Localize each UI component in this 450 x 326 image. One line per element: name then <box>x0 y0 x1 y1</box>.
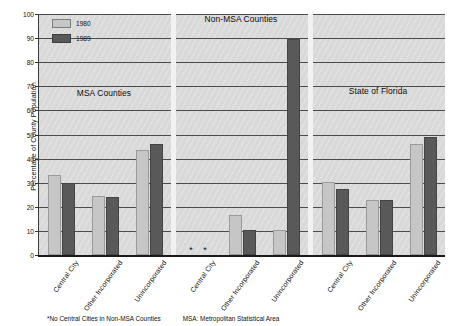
bar-state-of-florida-other-incorporated-1989 <box>380 200 393 255</box>
y-tick-label-80: 80 <box>27 59 34 66</box>
x-tick-label-non-msa-counties-central-city: Central City <box>189 259 217 294</box>
y-tick-mark-40 <box>35 159 38 160</box>
bar-state-of-florida-unincorporated-1980 <box>410 144 423 255</box>
x-tick-label-msa-counties-central-city: Central City <box>52 259 80 294</box>
y-tick-label-10: 10 <box>27 227 34 234</box>
y-tick-label-70: 70 <box>27 83 34 90</box>
bar-state-of-florida-central-city-1980 <box>322 182 335 256</box>
no-data-marker-non-msa-counties-central-city-1989: * <box>203 247 207 253</box>
section-separator-2 <box>308 14 313 255</box>
y-tick-mark-70 <box>35 86 38 87</box>
legend-label-1980: 1980 <box>76 20 91 27</box>
section-separator-1 <box>171 14 176 255</box>
y-tick-label-100: 100 <box>23 11 34 18</box>
y-tick-label-50: 50 <box>27 131 34 138</box>
bar-msa-counties-other-incorporated-1980 <box>92 196 105 255</box>
footnotes: *No Central Cities in Non-MSA Counties M… <box>47 315 437 322</box>
x-tick-label-msa-counties-unincorporated: Unincorporated <box>133 259 168 303</box>
bar-non-msa-counties-other-incorporated-1980 <box>229 215 242 255</box>
x-tick-label-state-of-florida-central-city: Central City <box>326 259 354 294</box>
footnote-msa-definition: MSA: Metropolitan Statistical Area <box>183 315 280 322</box>
gridline-50 <box>39 135 445 136</box>
y-tick-mark-100 <box>35 14 38 15</box>
y-tick-label-30: 30 <box>27 179 34 186</box>
x-tick-label-state-of-florida-unincorporated: Unincorporated <box>407 259 442 303</box>
y-tick-mark-0 <box>35 255 38 256</box>
x-tick-label-non-msa-counties-unincorporated: Unincorporated <box>270 259 305 303</box>
plot-area: ** <box>38 14 445 255</box>
x-tick-label-msa-counties-other-incorporated: Other Incorporated <box>82 259 123 312</box>
footnote-no-central-cities: *No Central Cities in Non-MSA Counties <box>47 315 161 322</box>
y-tick-mark-50 <box>35 135 38 136</box>
y-tick-label-60: 60 <box>27 107 34 114</box>
legend: 1980 1989 <box>52 19 91 49</box>
y-tick-mark-20 <box>35 207 38 208</box>
bar-chart: Percentage of County Population ** 01020… <box>0 0 450 326</box>
section-title-msa-counties: MSA Counties <box>77 88 131 98</box>
legend-label-1989: 1989 <box>76 35 91 42</box>
gridline-40 <box>39 159 445 160</box>
y-tick-label-0: 0 <box>30 252 34 259</box>
gridline-60 <box>39 110 445 111</box>
bar-non-msa-counties-unincorporated-1980 <box>273 230 286 255</box>
x-axis-line <box>38 255 445 257</box>
y-tick-label-40: 40 <box>27 155 34 162</box>
gridline-30 <box>39 183 445 184</box>
y-tick-label-20: 20 <box>27 203 34 210</box>
y-tick-label-90: 90 <box>27 35 34 42</box>
y-tick-mark-60 <box>35 110 38 111</box>
y-tick-mark-90 <box>35 38 38 39</box>
no-data-marker-non-msa-counties-central-city-1980: * <box>189 247 193 253</box>
section-title-non-msa-counties: Non-MSA Counties <box>205 14 278 24</box>
gridline-90 <box>39 38 445 39</box>
bar-state-of-florida-other-incorporated-1980 <box>366 200 379 255</box>
legend-item-1980: 1980 <box>52 19 91 28</box>
bar-msa-counties-other-incorporated-1989 <box>106 197 119 255</box>
bar-msa-counties-unincorporated-1980 <box>136 150 149 255</box>
section-title-state-of-florida: State of Florida <box>349 86 407 96</box>
bar-non-msa-counties-unincorporated-1989 <box>287 39 300 255</box>
bar-state-of-florida-unincorporated-1989 <box>424 137 437 255</box>
y-tick-mark-30 <box>35 183 38 184</box>
legend-swatch-1989-icon <box>52 34 71 43</box>
bar-non-msa-counties-other-incorporated-1989 <box>243 230 256 255</box>
bar-msa-counties-central-city-1980 <box>48 175 61 255</box>
y-tick-mark-80 <box>35 62 38 63</box>
y-tick-mark-10 <box>35 231 38 232</box>
legend-swatch-1980-icon <box>52 19 71 28</box>
bar-state-of-florida-central-city-1989 <box>336 189 349 255</box>
x-tick-label-state-of-florida-other-incorporated: Other Incorporated <box>356 259 397 312</box>
legend-item-1989: 1989 <box>52 34 91 43</box>
bar-msa-counties-central-city-1989 <box>62 183 75 255</box>
x-tick-label-non-msa-counties-other-incorporated: Other Incorporated <box>219 259 260 312</box>
bar-msa-counties-unincorporated-1989 <box>150 144 163 255</box>
gridline-80 <box>39 62 445 63</box>
